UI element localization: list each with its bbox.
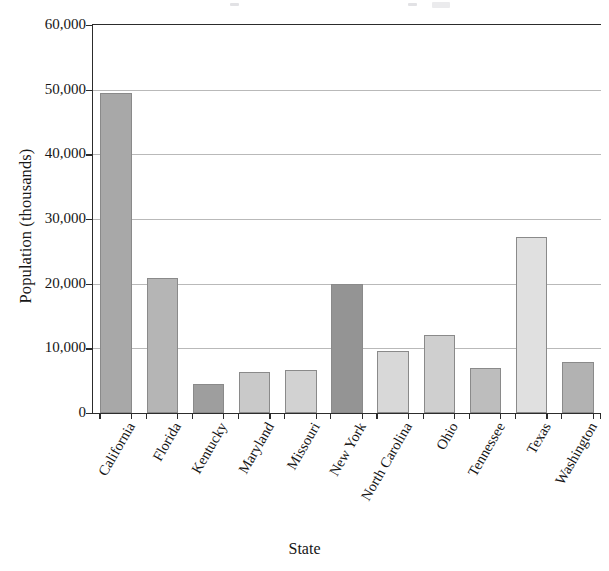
bar	[424, 335, 455, 413]
scan-artifact	[230, 3, 239, 6]
y-axis-tick-mark	[86, 90, 93, 91]
x-axis-tick-label: Washington	[552, 420, 599, 487]
y-axis-tick-mark	[86, 154, 93, 155]
bar	[516, 237, 547, 413]
y-axis-tick-mark	[86, 219, 93, 220]
x-axis-tick-label: New York	[327, 420, 369, 478]
y-axis-tick-mark	[86, 348, 93, 349]
x-axis-tick-label: Texas	[524, 420, 553, 456]
y-axis-tick-label: 50,000	[22, 82, 86, 97]
x-axis-tick-label: Maryland	[235, 420, 276, 476]
y-axis-tick-mark	[86, 284, 93, 285]
bar	[239, 372, 270, 413]
gridline	[93, 90, 601, 91]
y-axis-tick-label: 60,000	[22, 17, 86, 32]
bar	[147, 278, 178, 413]
x-axis-tick-labels: CaliforniaFloridaKentuckyMarylandMissour…	[0, 418, 609, 528]
bar	[100, 93, 131, 413]
bar	[470, 368, 501, 413]
bar	[193, 384, 224, 413]
bar	[285, 370, 316, 413]
bar	[331, 284, 362, 413]
x-axis-tick-label: California	[96, 420, 138, 478]
y-axis-tick-label: 20,000	[22, 276, 86, 291]
x-axis-title: State	[0, 540, 609, 558]
plot-area	[92, 24, 601, 414]
y-axis-tick-label: 40,000	[22, 146, 86, 161]
y-axis-tick-labels: 010,00020,00030,00040,00050,00060,000	[20, 0, 86, 420]
y-axis-tick-label: 30,000	[22, 211, 86, 226]
y-axis-tick-label: 10,000	[22, 340, 86, 355]
gridline	[93, 154, 601, 155]
bar-chart: Population (thousands) 010,00020,00030,0…	[0, 0, 609, 571]
x-axis-tick-label: Missouri	[284, 420, 322, 472]
bar	[562, 362, 593, 413]
gridline	[93, 219, 601, 220]
y-axis-tick-mark	[86, 25, 93, 26]
x-axis-tick-label: North Carolina	[358, 420, 414, 503]
x-axis-tick-label: Kentucky	[189, 420, 230, 476]
scan-artifact	[432, 2, 450, 8]
x-axis-tick-label: Florida	[150, 420, 184, 464]
bar	[377, 351, 408, 413]
x-axis-tick-label: Ohio	[434, 420, 461, 452]
x-axis-tick-label: Tennessee	[465, 420, 507, 479]
scan-artifact	[408, 3, 417, 6]
